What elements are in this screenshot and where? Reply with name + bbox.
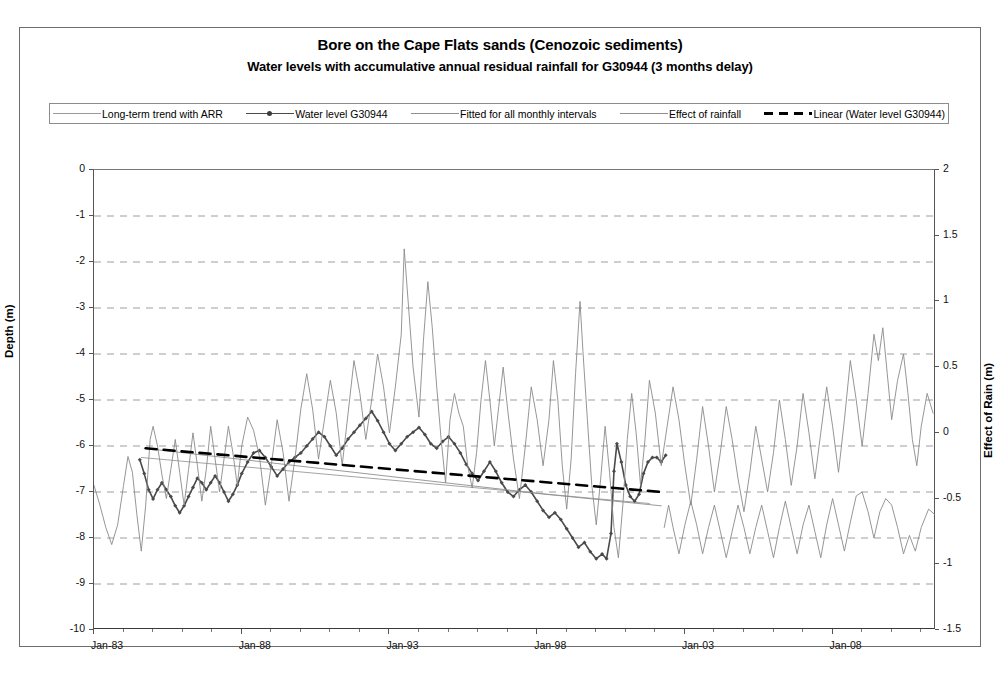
x-minor-tick-mark — [359, 629, 360, 632]
plot-svg — [94, 170, 936, 630]
legend-item-long-term-trend: Long-term trend with ARR — [53, 108, 223, 120]
x-minor-tick-mark — [300, 629, 301, 632]
thin-line-swatch-icon — [411, 113, 459, 114]
legend-item-effect-of-rainfall: Effect of rainfall — [620, 108, 741, 120]
y2-tick-mark — [935, 498, 939, 499]
y2-tick-mark — [935, 629, 939, 630]
x-tick-mark — [832, 629, 833, 634]
y-tick-label: -5 — [51, 392, 85, 404]
legend-item-water-level: Water level G30944 — [246, 108, 387, 120]
series-marker — [142, 472, 146, 476]
y2-tick-label: 2 — [943, 162, 983, 174]
x-tick-label: Jan-93 — [386, 639, 418, 651]
y-tick-mark — [89, 215, 93, 216]
x-tick-mark — [388, 629, 389, 634]
x-minor-tick-mark — [566, 629, 567, 632]
y2-tick-label: 1.5 — [943, 228, 983, 240]
chart-title: Bore on the Cape Flats sands (Cenozoic s… — [20, 36, 980, 53]
legend-label: Water level G30944 — [295, 108, 387, 120]
thin-line-swatch-icon — [53, 113, 101, 114]
x-minor-tick-mark — [418, 629, 419, 632]
y2-tick-mark — [935, 300, 939, 301]
series-marker — [612, 469, 616, 473]
y2-tick-mark — [935, 432, 939, 433]
y-tick-label: -7 — [51, 484, 85, 496]
x-minor-tick-mark — [182, 629, 183, 632]
y-tick-mark — [89, 445, 93, 446]
x-minor-tick-mark — [595, 629, 596, 632]
x-minor-tick-mark — [713, 629, 714, 632]
x-tick-mark — [241, 629, 242, 634]
legend-label: Fitted for all monthly intervals — [460, 108, 597, 120]
y-tick-label: -2 — [51, 254, 85, 266]
y-tick-mark — [89, 491, 93, 492]
y-tick-mark — [89, 169, 93, 170]
y-tick-mark — [89, 537, 93, 538]
x-minor-tick-mark — [270, 629, 271, 632]
x-minor-tick-mark — [625, 629, 626, 632]
x-minor-tick-mark — [920, 629, 921, 632]
dashed-line-swatch-icon — [764, 112, 812, 115]
y-tick-label: -10 — [51, 622, 85, 634]
series-marker — [138, 458, 142, 462]
series-line — [664, 492, 934, 558]
x-minor-tick-mark — [477, 629, 478, 632]
chart-subtitle: Water levels with accumulative annual re… — [20, 59, 980, 74]
chart-frame: Bore on the Cape Flats sands (Cenozoic s… — [19, 27, 981, 647]
y-tick-mark — [89, 353, 93, 354]
thin-line-swatch-icon — [620, 113, 668, 114]
x-minor-tick-mark — [152, 629, 153, 632]
x-minor-tick-mark — [211, 629, 212, 632]
x-tick-label: Jan-88 — [239, 639, 271, 651]
y2-tick-label: -1.5 — [943, 622, 983, 634]
x-minor-tick-mark — [507, 629, 508, 632]
y2-axis-title: Effect of Rain (m) — [982, 363, 994, 458]
y-tick-mark — [89, 399, 93, 400]
x-minor-tick-mark — [448, 629, 449, 632]
y-tick-label: -1 — [51, 208, 85, 220]
x-minor-tick-mark — [329, 629, 330, 632]
y-axis-title: Depth (m) — [3, 304, 15, 358]
x-minor-tick-mark — [891, 629, 892, 632]
title-block: Bore on the Cape Flats sands (Cenozoic s… — [20, 36, 980, 74]
y-tick-label: -6 — [51, 438, 85, 450]
y-tick-label: -8 — [51, 530, 85, 542]
x-tick-mark — [93, 629, 94, 634]
y2-tick-label: -1 — [943, 556, 983, 568]
legend-item-fitted: Fitted for all monthly intervals — [411, 108, 597, 120]
x-tick-label: Jan-83 — [91, 639, 123, 651]
y2-tick-label: 1 — [943, 293, 983, 305]
y2-tick-mark — [935, 169, 939, 170]
legend-label: Effect of rainfall — [669, 108, 741, 120]
y-tick-mark — [89, 583, 93, 584]
legend-label: Linear (Water level G30944) — [813, 108, 945, 120]
x-minor-tick-mark — [773, 629, 774, 632]
x-minor-tick-mark — [654, 629, 655, 632]
x-tick-mark — [684, 629, 685, 634]
y2-tick-label: 0 — [943, 425, 983, 437]
y-tick-label: 0 — [51, 162, 85, 174]
x-tick-mark — [536, 629, 537, 634]
x-minor-tick-mark — [123, 629, 124, 632]
x-tick-label: Jan-08 — [830, 639, 862, 651]
x-minor-tick-mark — [743, 629, 744, 632]
chart-legend: Long-term trend with ARR Water level G30… — [49, 103, 949, 124]
y2-tick-label: -0.5 — [943, 491, 983, 503]
legend-item-linear: Linear (Water level G30944) — [764, 108, 945, 120]
y-tick-label: -3 — [51, 300, 85, 312]
y2-tick-mark — [935, 366, 939, 367]
series-marker — [615, 442, 619, 446]
x-minor-tick-mark — [861, 629, 862, 632]
y2-tick-mark — [935, 235, 939, 236]
y-tick-label: -4 — [51, 346, 85, 358]
y-tick-label: -9 — [51, 576, 85, 588]
series-marker — [619, 460, 623, 464]
y-tick-mark — [89, 261, 93, 262]
plot-area — [93, 169, 935, 629]
x-tick-label: Jan-03 — [682, 639, 714, 651]
legend-label: Long-term trend with ARR — [102, 108, 223, 120]
series-line — [146, 448, 662, 492]
marker-line-swatch-icon — [246, 111, 294, 116]
x-tick-label: Jan-98 — [534, 639, 566, 651]
y2-tick-mark — [935, 563, 939, 564]
